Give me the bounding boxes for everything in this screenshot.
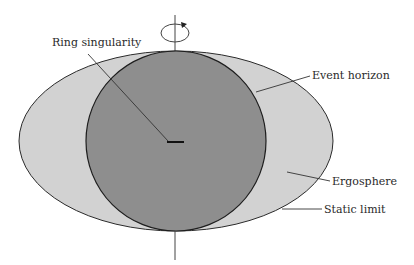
event-horizon-label: Event horizon	[312, 69, 390, 82]
kerr-black-hole-diagram: Ring singularity Event horizon Ergospher…	[0, 0, 414, 265]
static-limit-label: Static limit	[324, 203, 386, 216]
ergosphere-label: Ergosphere	[332, 175, 397, 188]
ring-singularity-label: Ring singularity	[52, 36, 142, 49]
